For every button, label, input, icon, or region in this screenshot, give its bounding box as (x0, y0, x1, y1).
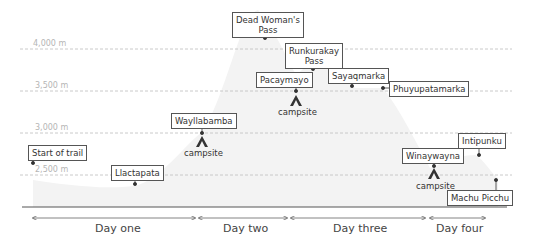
campsite-label-pacaymayo: campsite (278, 107, 317, 117)
campsite-label-winaywayna: campsite (416, 181, 455, 191)
marker-phuyupatamarka: Phuyupatamarka (389, 81, 469, 97)
marker-runkurakay-pass-line2: Pass (289, 56, 339, 66)
marker-dead-womans-pass-line2: Pass (236, 25, 300, 35)
marker-pacaymayo: Pacaymayo (256, 72, 313, 88)
day-three-label: Day three (333, 222, 387, 235)
marker-dead-womans-pass-line1: Dead Woman's (236, 15, 300, 25)
campsite-label-wayllabamba: campsite (184, 148, 223, 158)
grid-label-4000: 4,000 m (33, 39, 66, 48)
grid-label-2500: 2,500 m (35, 165, 68, 174)
marker-llactapata: Llactapata (111, 165, 164, 181)
day-two-label: Day two (223, 222, 268, 235)
marker-dead-womans-pass: Dead Woman's Pass (232, 12, 304, 38)
marker-runkurakay-pass-line1: Runkurakay (289, 46, 339, 56)
grid-label-3000: 3,000 m (35, 123, 68, 132)
marker-wayllabamba: Wayllabamba (171, 113, 237, 129)
day-four-label: Day four (436, 222, 483, 235)
grid-label-3500: 3,500 m (35, 81, 68, 90)
day-one-label: Day one (95, 222, 141, 235)
marker-intipunku: Intipunku (458, 133, 506, 149)
marker-winaywayna: Winaywayna (402, 148, 464, 164)
marker-machu-picchu: Machu Picchu (447, 190, 513, 206)
marker-runkurakay-pass: Runkurakay Pass (285, 43, 343, 69)
marker-start-of-trail: Start of trail (28, 145, 87, 161)
marker-sayaqmarka: Sayaqmarka (328, 68, 389, 84)
